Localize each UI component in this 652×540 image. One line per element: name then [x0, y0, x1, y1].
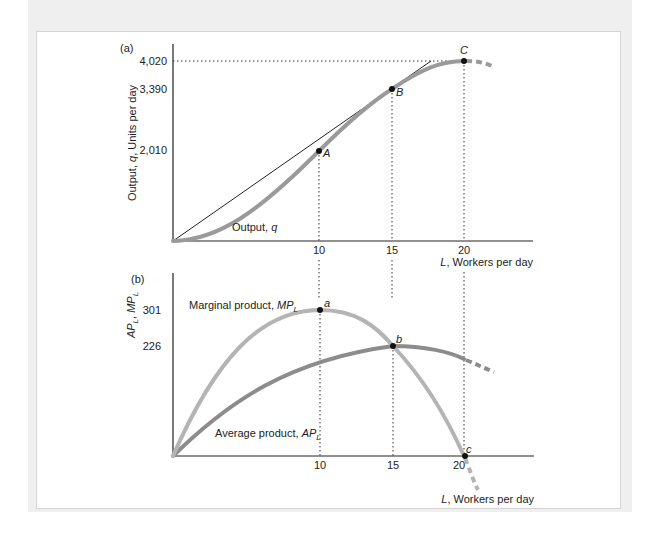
point-C-label: C: [460, 44, 468, 56]
x-tick-b-10: 10: [314, 459, 326, 471]
x-tick-b-15: 15: [387, 459, 399, 471]
mp-curve-label: Marginal product, MPL: [189, 299, 298, 314]
point-C: [461, 58, 467, 64]
ap-curve-dashed: [466, 360, 494, 372]
x-tick-a-15: 15: [386, 244, 398, 256]
production-chart: (a) Output, q, Units per day 4,020 3,390…: [0, 0, 652, 540]
point-a: [317, 307, 323, 313]
panel-b-label: (b): [131, 273, 144, 285]
y-tick-226: 226: [143, 340, 161, 352]
output-curve-dashed: [466, 61, 494, 67]
point-a-label: a: [324, 297, 330, 309]
x-axis-label-a: L, Workers per day: [440, 256, 533, 268]
point-B-label: B: [396, 86, 403, 98]
point-b-label: b: [396, 333, 402, 345]
y-tick-3390: 3,390: [139, 83, 167, 95]
y-axis-label-b: APL, MPL: [125, 292, 140, 339]
point-B: [389, 86, 395, 92]
y-axis-label-a: Output, q, Units per day: [126, 84, 138, 201]
y-tick-301: 301: [143, 304, 161, 316]
point-A-label: A: [322, 147, 330, 159]
panel-b: (b) APL, MPL 301 226 a b c Marginal prod…: [125, 273, 534, 505]
mp-curve-dashed: [465, 458, 478, 490]
x-tick-b-20: 20: [453, 459, 465, 471]
x-tick-a-20: 20: [458, 244, 470, 256]
ap-curve-label: Average product, APL: [215, 427, 321, 442]
panel-a: (a) Output, q, Units per day 4,020 3,390…: [120, 42, 533, 268]
point-A: [316, 148, 322, 154]
point-c-label: c: [466, 443, 472, 455]
x-tick-a-10: 10: [313, 244, 325, 256]
output-curve-label: Output, q: [232, 221, 278, 233]
x-axis-label-b: L, Workers per day: [441, 493, 534, 505]
y-tick-2010: 2,010: [139, 144, 167, 156]
panel-a-label: (a): [120, 42, 133, 54]
y-tick-4020: 4,020: [139, 55, 167, 67]
